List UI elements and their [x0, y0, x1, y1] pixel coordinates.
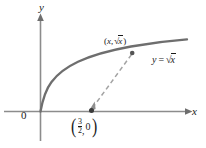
x-axis-label: x — [192, 106, 197, 117]
point-comma: , — [111, 36, 113, 46]
figure-canvas — [0, 0, 206, 148]
y-axis-label: y — [39, 2, 44, 13]
intercept-y-value: 0 — [86, 122, 91, 132]
x-intercept-marker — [89, 108, 94, 113]
equation-radical: √x — [166, 55, 176, 65]
x-intercept-label: ( 3 2 , 0 ) — [70, 118, 98, 136]
dashed-connector-line — [93, 55, 132, 109]
point-close-paren: ) — [123, 36, 126, 46]
curve-equation-label: y=√x — [152, 55, 176, 65]
coordinate-pair: ( 3 2 , 0 ) — [70, 118, 98, 136]
intercept-close-paren: ) — [91, 118, 96, 136]
point-on-curve-marker — [130, 51, 135, 56]
point-on-curve-label: (x,√x) — [104, 37, 126, 46]
equation-y: y — [152, 54, 156, 65]
math-figure-square-root-graph: y x 0 y=√x (x,√x) ( 3 2 , 0 ) — [0, 0, 206, 148]
intercept-comma: , — [82, 126, 85, 136]
y-axis-arrowhead — [37, 14, 44, 22]
equation-equals: = — [158, 54, 164, 65]
radicand: x — [171, 53, 176, 65]
origin-label: 0 — [21, 110, 27, 121]
square-root-curve — [41, 39, 188, 111]
intercept-open-paren: ( — [71, 118, 76, 136]
point-radical: √x — [114, 37, 123, 46]
